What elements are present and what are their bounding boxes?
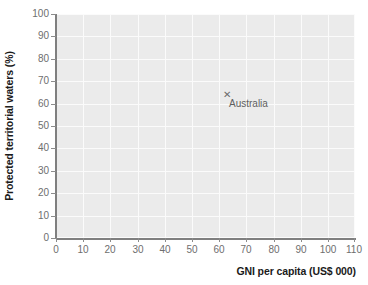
x-tick-mark [301, 238, 302, 242]
y-tick-label: 80 [21, 54, 49, 64]
y-tick-mark [51, 81, 56, 82]
x-tick-label: 10 [68, 244, 98, 256]
y-tick-label: 40 [21, 143, 49, 153]
gridline-horizontal [56, 36, 355, 37]
data-point-australia-label: Australia [229, 98, 268, 109]
y-tick-mark [51, 193, 56, 194]
y-tick-mark [51, 216, 56, 217]
x-tick-mark [219, 238, 220, 242]
y-tick-mark [51, 14, 56, 15]
x-tick-label: 50 [177, 244, 207, 256]
y-tick-label: 70 [21, 76, 49, 86]
gridline-horizontal [56, 59, 355, 60]
x-tick-label: 80 [259, 244, 289, 256]
y-tick-mark [51, 126, 56, 127]
x-tick-mark [165, 238, 166, 242]
gridline-horizontal [56, 148, 355, 149]
x-tick-label: 70 [231, 244, 261, 256]
x-tick-mark [56, 238, 57, 242]
y-tick-label: 50 [21, 121, 49, 131]
x-tick-mark [192, 238, 193, 242]
x-tick-label: 20 [95, 244, 125, 256]
x-tick-label: 110 [339, 244, 368, 256]
x-tick-mark [328, 238, 329, 242]
x-tick-label: 0 [41, 244, 71, 256]
y-tick-mark [51, 171, 56, 172]
x-tick-mark [110, 238, 111, 242]
y-tick-label: 100 [21, 9, 49, 19]
x-axis-line [56, 238, 356, 240]
y-tick-label: 10 [21, 211, 49, 221]
x-tick-label: 40 [150, 244, 180, 256]
x-tick-label: 60 [204, 244, 234, 256]
y-tick-label: 20 [21, 188, 49, 198]
gridline-horizontal [56, 14, 355, 15]
x-tick-mark [138, 238, 139, 242]
gridline-horizontal [56, 104, 355, 105]
y-tick-mark [51, 104, 56, 105]
y-tick-label: 60 [21, 99, 49, 109]
gridline-horizontal [56, 126, 355, 127]
x-tick-label: 30 [123, 244, 153, 256]
x-axis-title: GNI per capita (US$ 000) [56, 264, 356, 278]
scatter-chart: ✕ Australia 0 10 20 30 40 50 60 70 80 90… [0, 0, 368, 285]
x-tick-mark [274, 238, 275, 242]
gridline-horizontal [56, 171, 355, 172]
gridline-horizontal [56, 193, 355, 194]
y-axis-title: Protected territorial waters (%) [2, 14, 16, 238]
y-tick-mark [51, 59, 56, 60]
y-tick-label: 0 [21, 233, 49, 243]
y-tick-label: 30 [21, 166, 49, 176]
x-tick-mark [246, 238, 247, 242]
x-tick-mark [83, 238, 84, 242]
y-tick-label: 90 [21, 31, 49, 41]
y-tick-mark [51, 148, 56, 149]
plot-area: ✕ Australia [56, 14, 355, 238]
x-tick-mark [354, 238, 355, 242]
gridline-horizontal [56, 216, 355, 217]
y-tick-mark [51, 36, 56, 37]
gridline-horizontal [56, 81, 355, 82]
y-tick-mark [51, 238, 56, 239]
x-tick-label: 90 [286, 244, 316, 256]
